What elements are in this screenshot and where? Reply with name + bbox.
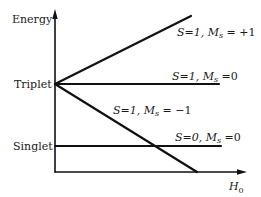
level-label-triplet: Triplet xyxy=(14,78,52,91)
state-label-triplet-zero: S=1, Ms =0 xyxy=(172,70,238,84)
state-label-triplet-minus1: S=1, Ms = −1 xyxy=(113,104,192,118)
level-label-singlet: Singlet xyxy=(13,140,53,153)
energy-lines xyxy=(55,16,221,172)
line-triplet-plus1 xyxy=(55,16,191,84)
y-axis-label: Energy xyxy=(12,13,53,26)
state-label-triplet-plus1: S=1, Ms = +1 xyxy=(177,26,256,40)
y-axis-arrow-icon xyxy=(52,9,57,19)
x-axis-label: H0 xyxy=(228,180,244,195)
state-label-singlet: S=0, Ms =0 xyxy=(175,131,241,145)
energy-level-diagram: Energy H0 Triplet Singlet S=1, Ms = +1 S… xyxy=(0,0,261,197)
line-triplet-minus1 xyxy=(55,84,197,172)
x-axis-arrow-icon xyxy=(237,169,247,174)
